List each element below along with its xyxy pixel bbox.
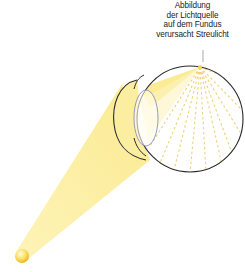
fundus-focal-point — [198, 65, 202, 69]
annotation-line-3: auf dem Fundus — [140, 20, 245, 30]
annotation-line-4: verursacht Streulicht — [140, 30, 245, 40]
annotation-label: Abbildung der Lichtquelle auf dem Fundus… — [140, 1, 245, 39]
annotation-line-1: Abbildung — [140, 1, 245, 11]
lens — [134, 90, 158, 146]
annotation-line-2: der Lichtquelle — [140, 11, 245, 21]
light-source — [15, 249, 29, 263]
scattered-light-diagram — [0, 0, 245, 272]
